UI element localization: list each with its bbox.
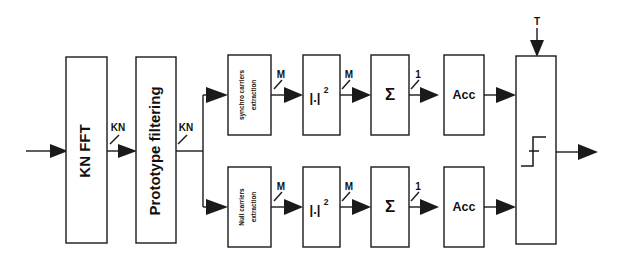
block-null-extraction-label-line2: extraction xyxy=(250,192,257,223)
block-diagram-figure: KN FFT Prototype filtering synchro carri… xyxy=(0,0,621,262)
wire-magsq-to-sum-top xyxy=(340,80,371,103)
block-sum-bottom[interactable]: Σ xyxy=(371,167,409,247)
wire-acc-to-decision-bottom xyxy=(484,199,516,215)
signal-label-sum-top-out: 1 xyxy=(415,69,421,80)
block-magsq-bottom-exponent: 2 xyxy=(324,197,329,207)
wire-sum-to-acc-top xyxy=(409,80,439,103)
block-magnitude-squared-top[interactable]: |.| 2 xyxy=(303,55,340,135)
signal-label-threshold-t: T xyxy=(534,16,540,27)
block-kn-fft[interactable]: KN FFT xyxy=(66,57,107,243)
block-acc-top[interactable]: Acc xyxy=(444,55,484,135)
wire-null-to-magsq xyxy=(271,192,303,215)
signal-label-sum-bottom-out: 1 xyxy=(415,181,421,192)
signal-label-magsq-bottom-out: M xyxy=(345,181,353,192)
wire-synchro-to-magsq xyxy=(271,80,303,103)
signal-label-fft-out: KN xyxy=(111,122,125,133)
wire-sum-to-acc-bottom xyxy=(409,192,439,215)
block-magsq-top-label: |.| xyxy=(310,90,321,105)
block-null-carriers-extraction[interactable]: Null carriers extraction xyxy=(228,167,271,247)
block-magsq-top-exponent: 2 xyxy=(324,85,329,95)
block-synchro-extraction-label-line1: synchro carriers xyxy=(238,70,246,121)
wire-prototype-to-branch xyxy=(176,135,203,151)
wire-magsq-to-sum-bottom xyxy=(340,192,371,215)
signal-label-prototype-out: KN xyxy=(179,122,193,133)
signal-label-null-out: M xyxy=(277,181,285,192)
wire-output xyxy=(556,144,598,160)
block-decision-threshold[interactable] xyxy=(516,56,556,244)
diagram-canvas: KN FFT Prototype filtering synchro carri… xyxy=(0,0,621,262)
wire-input xyxy=(26,144,68,158)
block-acc-bottom[interactable]: Acc xyxy=(444,167,484,247)
block-acc-bottom-label: Acc xyxy=(453,200,476,214)
block-magnitude-squared-bottom[interactable]: |.| 2 xyxy=(303,167,340,247)
signal-label-magsq-top-out: M xyxy=(345,69,353,80)
signal-label-synchro-out: M xyxy=(277,69,285,80)
wire-threshold-input xyxy=(530,28,544,57)
block-kn-fft-label: KN FFT xyxy=(76,124,93,177)
block-sum-bottom-label: Σ xyxy=(385,197,395,216)
block-null-extraction-label-line1: Null carriers xyxy=(238,188,245,226)
wire-acc-to-decision-top xyxy=(484,87,516,103)
block-prototype-filtering-label: Prototype filtering xyxy=(146,86,163,215)
block-synchro-extraction-label-line2: extraction xyxy=(250,80,257,111)
block-sum-top-label: Σ xyxy=(385,85,395,104)
block-magsq-bottom-label: |.| xyxy=(310,202,321,217)
block-synchro-carriers-extraction[interactable]: synchro carriers extraction xyxy=(228,55,271,135)
block-prototype-filtering[interactable]: Prototype filtering xyxy=(136,57,176,243)
wire-branch-to-synchro xyxy=(203,87,228,103)
wire-branch-to-null xyxy=(203,199,228,215)
block-acc-top-label: Acc xyxy=(453,88,476,102)
wire-fft-to-prototype xyxy=(107,135,137,158)
block-sum-top[interactable]: Σ xyxy=(371,55,409,135)
